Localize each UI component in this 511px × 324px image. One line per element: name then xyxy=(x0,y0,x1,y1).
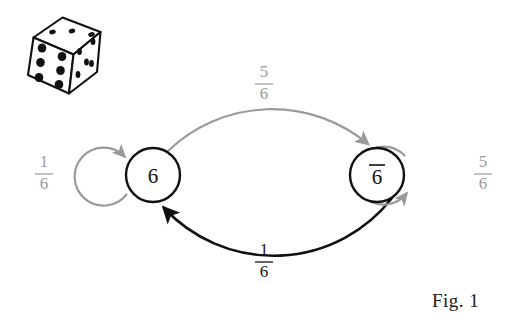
edge-label-denominator: 6 xyxy=(479,174,488,193)
node-six[interactable]: 6 xyxy=(126,148,180,202)
die-illustration xyxy=(28,18,101,94)
edge-label-six-self-loop: 1 6 xyxy=(35,152,53,193)
edge-label-numerator: 5 xyxy=(260,62,269,81)
figure-caption: Fig. 1 xyxy=(432,290,479,311)
figure-container: 6 6 5 6 1 6 1 6 5 6 xyxy=(0,0,511,324)
edge-label-not-six-self-loop: 5 6 xyxy=(474,152,492,193)
edge-label-six-to-not-six: 5 6 xyxy=(255,62,273,103)
edge-label-numerator: 1 xyxy=(260,240,269,259)
edge-six-to-not-six xyxy=(168,109,368,151)
node-six-label: 6 xyxy=(148,164,159,188)
edge-label-denominator: 6 xyxy=(40,174,49,193)
edge-not-six-to-six xyxy=(164,198,392,256)
node-not-six[interactable]: 6 xyxy=(350,148,404,202)
node-not-six-label: 6 xyxy=(372,165,383,189)
edge-label-numerator: 1 xyxy=(40,152,49,171)
edge-six-self-loop xyxy=(75,148,127,206)
edge-label-numerator: 5 xyxy=(479,152,488,171)
markov-chain-diagram: 6 6 5 6 1 6 1 6 5 6 xyxy=(0,0,511,324)
edge-label-denominator: 6 xyxy=(260,262,269,281)
edge-label-not-six-to-six: 1 6 xyxy=(255,240,273,281)
edge-label-denominator: 6 xyxy=(260,84,269,103)
